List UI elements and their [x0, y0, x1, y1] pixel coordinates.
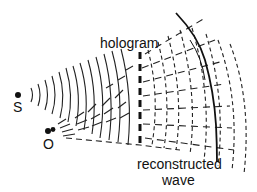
object-ray — [66, 138, 180, 150]
source-s-label: S — [13, 100, 22, 114]
source-o-label: O — [43, 137, 54, 151]
diffracted-wavefronts — [148, 28, 246, 174]
reconstructed-wave-front — [176, 13, 217, 162]
source-s-icon — [15, 92, 21, 98]
source-o-icon — [45, 127, 55, 134]
reconstructed-label: reconstructed — [137, 157, 222, 171]
object-wavefronts — [58, 66, 133, 136]
reconstructed-wave-front-inner — [190, 40, 205, 80]
wave-label: wave — [162, 173, 195, 187]
hologram-label: hologram — [100, 36, 158, 50]
